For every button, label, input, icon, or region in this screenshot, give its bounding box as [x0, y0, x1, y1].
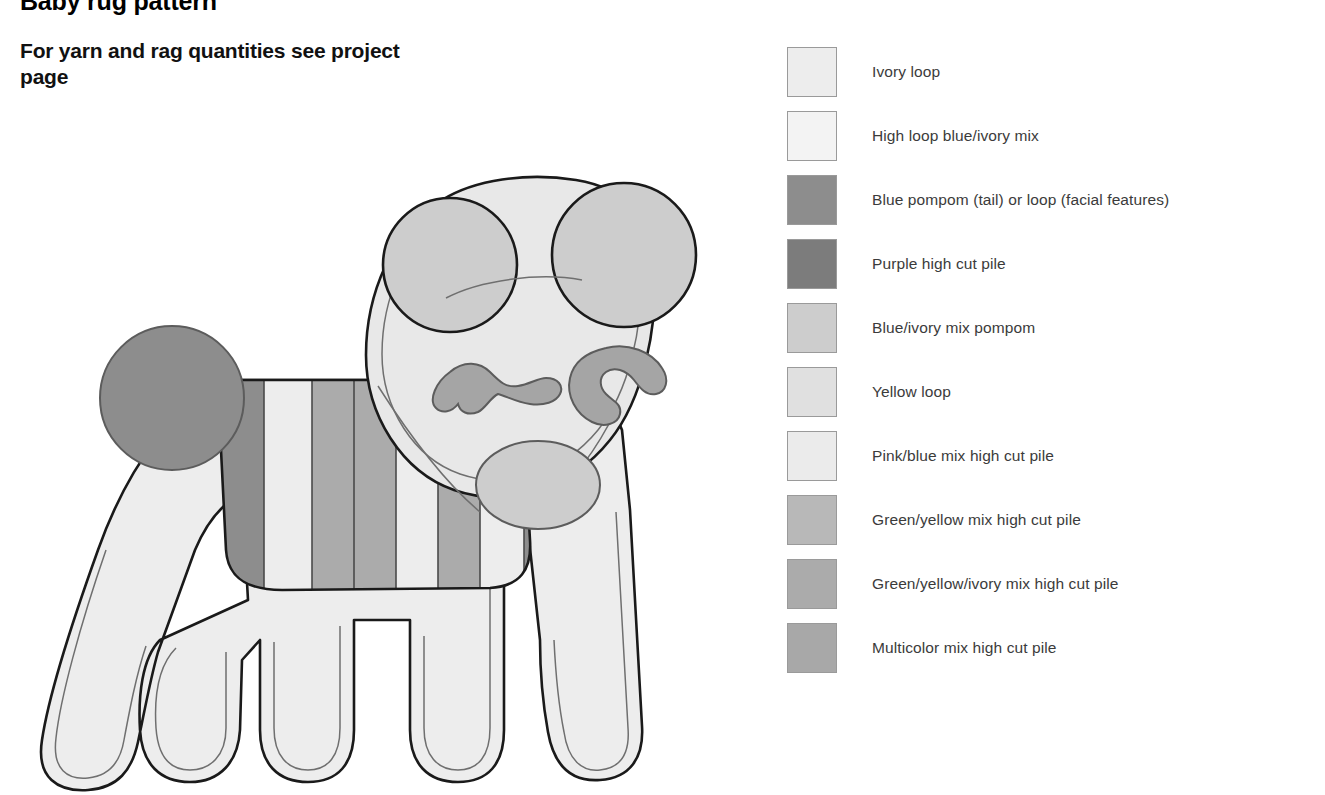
legend-item: Green/yellow mix high cut pile [787, 495, 1287, 559]
legend-label: Pink/blue mix high cut pile [872, 447, 1054, 465]
legend-swatch [787, 431, 837, 481]
legend-item: Green/yellow/ivory mix high cut pile [787, 559, 1287, 623]
legend-label: Yellow loop [872, 383, 951, 401]
legend-item: Blue pompom (tail) or loop (facial featu… [787, 175, 1287, 239]
legend-label: Purple high cut pile [872, 255, 1006, 273]
legend-item: Yellow loop [787, 367, 1287, 431]
legend-swatch [787, 495, 837, 545]
legend-label: Blue pompom (tail) or loop (facial featu… [872, 191, 1169, 209]
legend-item: Multicolor mix high cut pile [787, 623, 1287, 687]
legend-item: Pink/blue mix high cut pile [787, 431, 1287, 495]
legend-label: Green/yellow/ivory mix high cut pile [872, 575, 1119, 593]
legend-swatch [787, 239, 837, 289]
legend-swatch [787, 175, 837, 225]
legend-label: Green/yellow mix high cut pile [872, 511, 1081, 529]
dog-rug-svg: .o { stroke:#1a1a1a; stroke-width:2.6; s… [10, 80, 750, 795]
chest-pompom [476, 441, 600, 529]
legend-swatch [787, 47, 837, 97]
material-legend: Ivory loop High loop blue/ivory mix Blue… [787, 47, 1287, 687]
legend-swatch [787, 559, 837, 609]
legend-label: Multicolor mix high cut pile [872, 639, 1057, 657]
legend-label: Blue/ivory mix pompom [872, 319, 1035, 337]
dog-rug-illustration: .o { stroke:#1a1a1a; stroke-width:2.6; s… [10, 80, 750, 795]
legend-item: Blue/ivory mix pompom [787, 303, 1287, 367]
legend-swatch [787, 303, 837, 353]
legend-label: High loop blue/ivory mix [872, 127, 1039, 145]
page-title: Baby rug pattern [20, 0, 217, 16]
left-ear [383, 198, 517, 332]
legend-item: Purple high cut pile [787, 239, 1287, 303]
legend-swatch [787, 367, 837, 417]
tail-pompom [100, 326, 244, 470]
legend-item: High loop blue/ivory mix [787, 111, 1287, 175]
legend-swatch [787, 111, 837, 161]
blanket-stripe-3 [312, 370, 354, 610]
blanket-stripe-2 [264, 370, 312, 610]
legend-item: Ivory loop [787, 47, 1287, 111]
legend-swatch [787, 623, 837, 673]
right-ear [552, 183, 696, 327]
legend-label: Ivory loop [872, 63, 940, 81]
